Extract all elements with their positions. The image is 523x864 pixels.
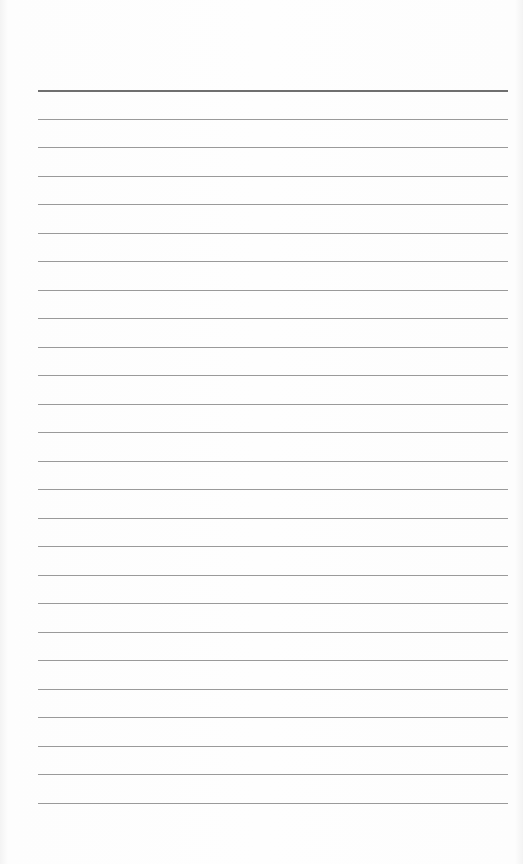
- rule-line: [38, 803, 508, 804]
- rule-line: [38, 147, 508, 148]
- rule-line: [38, 290, 508, 291]
- rule-line: [38, 774, 508, 775]
- rule-line: [38, 746, 508, 747]
- rule-line: [38, 375, 508, 376]
- rule-line: [38, 461, 508, 462]
- rule-line: [38, 489, 508, 490]
- rule-line: [38, 575, 508, 576]
- rule-line: [38, 518, 508, 519]
- rule-line: [38, 119, 508, 120]
- rule-line: [38, 176, 508, 177]
- top-rule-line: [38, 90, 508, 92]
- rule-line: [38, 404, 508, 405]
- rule-line: [38, 603, 508, 604]
- rule-line: [38, 717, 508, 718]
- rule-line: [38, 660, 508, 661]
- rule-line: [38, 432, 508, 433]
- rule-line: [38, 546, 508, 547]
- rule-line: [38, 233, 508, 234]
- rule-line: [38, 261, 508, 262]
- ruled-paper-sheet: [0, 0, 523, 864]
- rule-line: [38, 318, 508, 319]
- rule-line: [38, 689, 508, 690]
- rule-line: [38, 632, 508, 633]
- rule-line: [38, 347, 508, 348]
- rule-line: [38, 204, 508, 205]
